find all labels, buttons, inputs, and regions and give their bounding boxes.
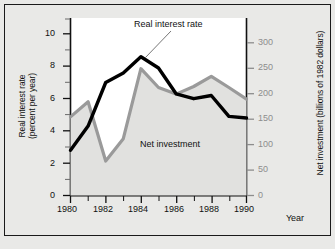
right-tick-label-300: 300 xyxy=(258,37,273,47)
right-tick-label-100: 100 xyxy=(258,139,273,149)
chart-figure: Real interest rate (percent per year) Ne… xyxy=(0,0,335,249)
left-axis-title-line1: Real interest rate xyxy=(17,36,27,176)
left-tick-label-4: 4 xyxy=(50,125,55,135)
right-tick-label-250: 250 xyxy=(258,62,273,72)
x-tick-label-1982: 1982 xyxy=(93,204,113,214)
left-tick-label-2: 2 xyxy=(50,158,55,168)
left-axis-title: Real interest rate (percent per year) xyxy=(17,36,37,176)
left-axis-title-line2: (percent per year) xyxy=(27,36,37,176)
x-tick-label-1990: 1990 xyxy=(234,204,254,214)
right-tick-label-0: 0 xyxy=(258,190,263,200)
x-axis-minor-ticks xyxy=(88,196,230,201)
x-tick-label-1984: 1984 xyxy=(128,204,148,214)
x-tick-label-1988: 1988 xyxy=(199,204,219,214)
x-tick-label-1980: 1980 xyxy=(57,204,77,214)
real-interest-rate-label: Real interest rate xyxy=(134,19,203,29)
right-tick-label-200: 200 xyxy=(258,88,273,98)
left-tick-label-8: 8 xyxy=(50,60,55,70)
x-axis-title: Year xyxy=(286,213,304,223)
left-tick-label-0: 0 xyxy=(50,190,55,200)
left-tick-label-10: 10 xyxy=(45,28,55,38)
net-investment-label: Net investment xyxy=(140,139,200,149)
right-axis-title: Net investment (billions of 1982 dollars… xyxy=(315,27,325,179)
right-tick-label-50: 50 xyxy=(258,164,268,174)
right-tick-label-150: 150 xyxy=(258,113,273,123)
left-tick-label-6: 6 xyxy=(50,93,55,103)
left-axis-minor-ticks xyxy=(65,19,70,179)
right-axis-major-ticks xyxy=(247,43,254,196)
x-tick-label-1986: 1986 xyxy=(164,204,184,214)
